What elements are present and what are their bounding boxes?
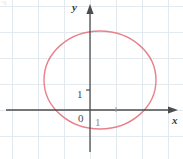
origin-label: 0 [78, 113, 84, 124]
x-axis-label: x [172, 115, 178, 126]
y-axis-arrowhead [86, 4, 93, 14]
x-axis-arrowhead [168, 106, 178, 113]
x-axis-tick-label-1: 1 [95, 117, 101, 128]
axes-layer [0, 0, 183, 159]
y-axis-tick-label-1: 1 [77, 89, 83, 100]
coordinate-plot-figure: ◹ y x 1 0 1 [0, 0, 183, 159]
y-axis-label: y [72, 2, 77, 13]
